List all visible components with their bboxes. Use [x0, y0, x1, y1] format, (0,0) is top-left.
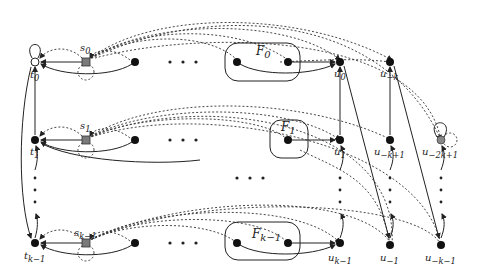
node-F1	[284, 136, 292, 144]
node-row0-a	[131, 58, 139, 66]
node-u-minus-1	[386, 241, 394, 249]
node-u1	[336, 136, 344, 144]
node-row1-a	[131, 136, 139, 144]
t-column-dots	[34, 177, 37, 204]
node-F0-a	[233, 58, 241, 66]
node-u0	[336, 58, 344, 66]
label-tk-1: tk−1	[24, 251, 45, 263]
label-u-minus-k: u−k	[380, 69, 398, 81]
diagram-canvas	[0, 0, 477, 279]
label-s1: s1	[80, 121, 90, 133]
label-uk-1: uk−1	[328, 253, 352, 265]
label-u-minus-2k-plus-1: u−2k+1	[422, 147, 458, 159]
node-u-minus-k-plus-1	[386, 136, 394, 144]
label-F1: F1	[281, 121, 296, 136]
graph-diagram: t0 s0 F0 u0 u−k t1 s1 F1 u1 u−k+1 u−2k+1…	[0, 0, 477, 279]
label-u-minus-1: u−1	[380, 253, 399, 265]
label-u1: u1	[334, 147, 346, 159]
node-u-minus-k	[386, 58, 394, 66]
node-s0	[82, 58, 90, 66]
label-t1: t1	[30, 147, 39, 159]
node-F0-b	[284, 58, 292, 66]
label-F0: F0	[256, 45, 271, 60]
label-Fk-1: Fk−1	[252, 228, 281, 243]
node-t1	[31, 136, 39, 144]
label-s0: s0	[80, 43, 90, 55]
node-rowk-a	[131, 239, 139, 247]
node-s1	[82, 136, 90, 144]
node-uk-1	[336, 239, 344, 247]
label-u0: u0	[334, 69, 346, 81]
node-tk-1	[31, 239, 39, 247]
label-u-minus-k-plus-1: u−k+1	[374, 147, 405, 159]
node-t0	[31, 58, 39, 66]
label-t0: t0	[30, 70, 39, 82]
node-u-minus-k-minus-1	[437, 241, 445, 249]
label-sk-1: sk−1	[74, 228, 96, 240]
label-u-minus-k-minus-1: u−k−1	[425, 253, 456, 265]
node-Fk-1-b	[284, 239, 292, 247]
node-Fk-1-a	[233, 239, 241, 247]
node-u-minus-2k-plus-1	[437, 136, 445, 144]
